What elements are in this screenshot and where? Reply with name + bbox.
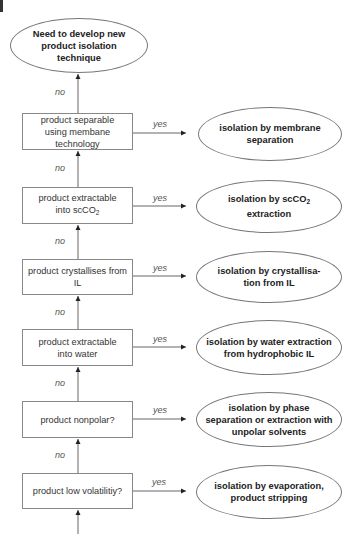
decision-membrane: product separable using membane technolo…: [22, 113, 133, 150]
yes-label: yes: [153, 334, 167, 344]
outcome-text: isolation by phase separation or extract…: [205, 402, 333, 438]
decision-low-volatility: product low volatilitiy?: [22, 473, 133, 509]
outcome-crystallisation: isolation by crystallisa-tion from IL: [196, 251, 342, 303]
outcome-text: isolation by water extraction from hydro…: [201, 336, 337, 360]
outcome-text: isolation by membrane separation: [217, 122, 323, 146]
no-label: no: [55, 307, 65, 317]
outcome-scco2-extraction: isolation by scCO2 extraction: [196, 180, 342, 233]
decision-text: product separable using membane technolo…: [31, 114, 124, 150]
no-label: no: [55, 236, 65, 246]
terminal-develop-new-technique: Need to develop new product isolation te…: [10, 18, 148, 73]
decision-text: product crystallises from IL: [23, 265, 132, 289]
outcome-membrane-separation: isolation by membrane separation: [198, 107, 342, 161]
yes-label: yes: [153, 263, 167, 273]
outcome-text: isolation by scCO2 extraction: [227, 193, 311, 220]
outcome-phase-separation: isolation by phase separation or extract…: [196, 392, 342, 447]
outcome-text: isolation by crystallisa-tion from IL: [213, 265, 325, 289]
terminal-text: Need to develop new product isolation te…: [25, 28, 133, 64]
outcome-evaporation: isolation by evaporation, product stripp…: [196, 465, 342, 519]
decision-nonpolar: product nonpolar?: [22, 401, 133, 438]
decision-crystallises: product crystallises from IL: [22, 259, 133, 295]
yes-label: yes: [153, 405, 167, 415]
decision-text: product extractable into scCO2: [37, 192, 118, 219]
yes-label: yes: [153, 119, 167, 129]
no-label: no: [55, 163, 65, 173]
outcome-text: isolation by evaporation, product stripp…: [207, 480, 331, 504]
no-label: no: [55, 450, 65, 460]
yes-label: yes: [153, 193, 167, 203]
no-label: no: [55, 378, 65, 388]
decision-text: product nonpolar?: [40, 414, 114, 426]
decision-scco2: product extractable into scCO2: [22, 187, 133, 224]
decision-text: product extractable into water: [37, 336, 118, 360]
outcome-water-extraction: isolation by water extraction from hydro…: [196, 320, 342, 375]
decision-text: product low volatilitiy?: [33, 485, 122, 497]
decision-water-extraction: product extractable into water: [22, 329, 133, 366]
yes-label: yes: [152, 477, 166, 487]
no-label: no: [55, 87, 65, 97]
